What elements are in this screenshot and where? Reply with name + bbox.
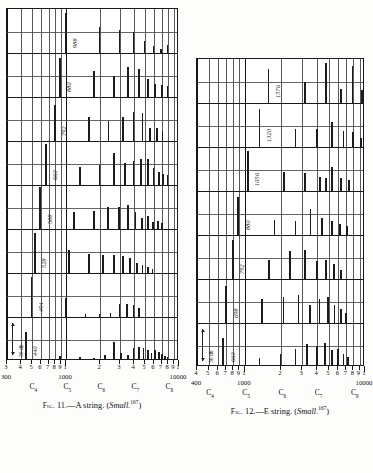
spectral-line [283,172,285,191]
spectral-line [34,233,36,273]
spectral-line [343,354,345,366]
spectral-line [142,265,144,273]
spectral-line [138,308,140,317]
axis-tick-label: 6 [336,369,339,376]
plot-area: 98888079266058852849444030 db34567891234… [6,8,178,410]
spectral-line [289,251,291,279]
spectral-line [147,216,149,229]
caption-number: 12. [245,407,255,416]
spectral-line [133,305,135,317]
panel-baseline [7,229,177,230]
spectral-line [156,128,158,141]
panel-baseline [7,97,177,98]
figure-12-e-string: 15761320105688079269866030 db45678912345… [196,58,364,416]
spectral-line [319,299,321,323]
panel-reference-line [7,208,177,209]
panel-reference-line [7,252,177,253]
octave-marker: C7 [131,382,139,393]
spectral-line [167,86,169,97]
spectral-line [331,221,333,235]
axis-tick-label: 8 [231,369,234,376]
spectral-line [129,258,131,273]
spectral-line [309,305,311,323]
fundamental-frequency-label: 698 [232,308,239,318]
spectral-line [339,224,341,235]
axis-tick-label: 1 [176,363,179,370]
spectral-line [327,297,329,323]
spectral-line [304,173,306,191]
panel-baseline [197,191,363,192]
panel-reference-line [197,170,363,171]
fundamental-frequency-label: 880 [244,220,251,230]
fundamental-frequency-label: 792 [60,126,67,136]
caption-source-close: ) [326,407,329,416]
spectral-line [119,30,121,53]
spectral-line [352,66,354,103]
db-scale-label: 30 db [208,350,214,363]
axis-decade-label: 1000 [58,373,72,380]
octave-marker: C6 [97,382,105,393]
axis-tick-label: 2 [278,369,281,376]
spectral-line [147,267,149,273]
spectral-line [158,172,160,185]
panel-baseline [7,185,177,186]
axis-tick-label: 6 [151,363,154,370]
spectral-line [143,348,145,360]
axis-tick-label: 6 [38,363,41,370]
panel-baseline [197,147,363,148]
spectral-line [154,350,156,360]
spectral-line [151,353,153,360]
axis-tick-label: 4 [315,369,318,376]
spectral-line [153,168,155,185]
spectral-line [346,226,348,235]
spectral-line [147,79,149,97]
spectral-line [65,13,67,53]
fundamental-frequency-label: 988 [71,38,78,48]
spectral-line [167,45,169,53]
spectrum-grid: 15761320105688079269866030 db [196,58,364,366]
spectral-line [306,344,308,366]
gridline-vertical [239,59,240,365]
caption-prefix: Fig. [43,401,55,410]
gridline-vertical [353,59,354,365]
spectral-line [325,260,327,279]
spectral-line [113,76,115,97]
spectral-line [149,128,151,141]
spectral-line [361,90,363,103]
axis-tick-label: 3 [117,363,120,370]
spectral-line [25,332,27,360]
gridline-vertical [61,9,62,359]
spectral-line [247,151,249,191]
spectral-line [274,220,276,235]
spectral-line [147,350,149,360]
figure-caption: Fig. 11.—A string. (Small.167) [6,399,178,410]
spectral-line [133,348,135,360]
db-scale-label: 30 db [18,344,24,357]
axis-tick-label: 1 [362,369,365,376]
spectral-line [157,221,159,229]
panel-baseline [7,141,177,142]
figure-11-a-string: 98888079266058852849444030 db34567891234… [6,8,178,410]
spectral-line [331,167,333,191]
gridline-vertical [145,9,146,359]
spectral-line [340,178,342,191]
gridline-vertical [174,9,175,359]
figure-caption: Fig. 12.—E string. (Small.167) [196,405,364,416]
spectral-line [102,255,104,273]
spectral-line [348,180,350,191]
spectral-line [316,346,318,366]
gridline-vertical [245,59,246,365]
octave-marker: C8 [351,388,359,399]
spectral-line [268,260,270,279]
spectral-line [304,82,306,103]
spectral-line [343,131,345,147]
spectral-line [319,177,321,191]
axis-tick-label: 4 [194,369,197,376]
spectral-line [122,256,124,273]
spectral-line [161,85,163,97]
axis-tick-label: 5 [29,363,32,370]
gridline-vertical [329,59,330,365]
spectral-line [107,207,109,229]
spectral-line [79,167,81,185]
spectral-line [316,261,318,279]
